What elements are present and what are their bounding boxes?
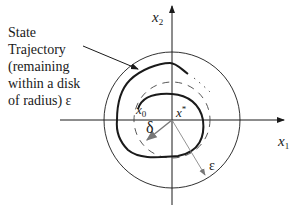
x2-subscript: 2 [159,17,164,27]
callout-line: within a disk [8,76,80,91]
x1-symbol: x [278,133,285,149]
x2-symbol: x [152,9,159,25]
callout-line: (remaining [8,59,69,74]
x0-subscript: 0 [142,109,147,119]
x1-axis-label: x1 [278,133,289,151]
callout-line: Trajectory [8,42,66,57]
equilibrium-label: x* [176,104,186,121]
epsilon-radius [172,120,205,175]
callout-arrow [83,46,138,69]
trajectory-continuation [194,78,210,92]
callout-line: State [8,25,36,40]
callout-line: of radius) ε [8,93,71,108]
x2-axis-label: x2 [152,9,163,27]
trajectory-callout: State Trajectory (remaining within a dis… [8,24,80,109]
epsilon-label: ε [209,158,215,174]
initial-state-label: x0 [136,102,146,119]
x1-subscript: 1 [285,141,290,151]
state-trajectory [117,63,204,157]
xstar-superscript: * [182,104,187,114]
delta-label: δ [146,119,154,137]
